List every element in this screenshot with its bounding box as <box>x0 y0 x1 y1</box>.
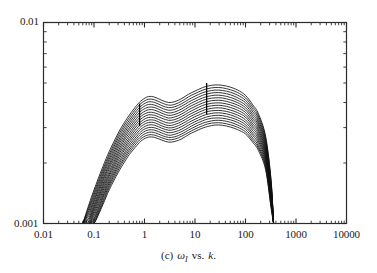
curve-line-7 <box>83 100 274 223</box>
plot-canvas <box>0 0 377 273</box>
curve-line-10 <box>83 108 274 224</box>
caption-symbol: ω <box>177 249 185 261</box>
x-tick-label-6: 10000 <box>333 228 360 240</box>
caption-rest: vs. <box>192 249 205 261</box>
x-tick-label-4: 100 <box>237 228 253 240</box>
x-tick-label-1: 0.1 <box>87 228 100 240</box>
caption-subscript: I <box>185 255 188 264</box>
axis-ticks <box>44 23 347 224</box>
figure-caption: (c)ωIvs.k. <box>0 249 377 264</box>
x-tick-label-2: 1 <box>142 228 147 240</box>
y-axis-top-label: 0.01 <box>20 15 39 27</box>
figure-panel: 0.01 0.001 0.010.1110100100010000 (c)ωIv… <box>0 0 377 273</box>
plot-frame <box>44 23 347 224</box>
caption-period: . <box>213 249 216 261</box>
curve-family <box>83 85 274 225</box>
x-tick-label-0: 0.01 <box>34 228 53 240</box>
x-tick-label-5: 1000 <box>285 228 307 240</box>
caption-prefix: (c) <box>161 249 173 261</box>
x-tick-label-3: 10 <box>190 228 201 240</box>
